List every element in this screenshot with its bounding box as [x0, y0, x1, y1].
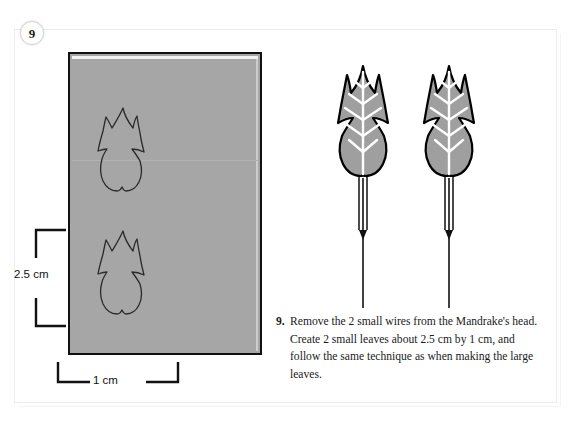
dimension-bracket-horizontal [56, 360, 180, 388]
step-number-label: 9 [29, 27, 36, 40]
finished-leaves-illustration [315, 58, 505, 313]
instruction-paragraph: 9. Remove the 2 small wires from the Man… [276, 313, 538, 383]
step-number-badge: 9 [20, 21, 44, 45]
leaf-stem-2 [445, 170, 453, 308]
finished-leaf-2 [403, 58, 495, 313]
instruction-body-text: Remove the 2 small wires from the Mandra… [276, 313, 538, 383]
foam-sheet-illustration [68, 52, 262, 355]
traced-leaf-outline-1 [86, 104, 160, 196]
dimension-label-width: 1 cm [93, 374, 118, 386]
dimension-label-height: 2.5 cm [14, 268, 49, 280]
finished-leaf-1 [317, 58, 409, 313]
instruction-step-number: 9. [276, 313, 285, 331]
traced-leaf-outline-2 [86, 227, 160, 319]
leaf-stem-1 [359, 170, 367, 308]
foam-sheet-top-highlight [72, 56, 258, 59]
instruction-page: 9 2.5 cm 1 cm [0, 0, 573, 424]
foam-sheet-right-highlight [256, 56, 258, 351]
